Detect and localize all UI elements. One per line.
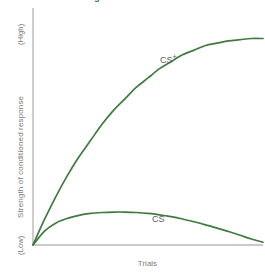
conditioning-response-chart: ...the conditioning occurs to the CS+ (H… <box>0 0 265 280</box>
y-axis-title: Strength of conditioned response <box>16 96 25 218</box>
series-line-cs-minus <box>33 212 263 245</box>
series-label-cs-plus-sign: + <box>173 53 177 60</box>
series-label-cs-minus-sign: − <box>165 212 169 219</box>
y-axis-low-label: (Low) <box>16 235 25 255</box>
y-axis-labels: (High) Strength of conditioned response … <box>0 0 30 280</box>
plot-svg <box>30 8 265 253</box>
series-label-cs-minus-base: CS <box>152 214 165 224</box>
x-axis-title: Trials <box>30 259 265 268</box>
series-label-cs-minus: CS− <box>152 214 169 224</box>
y-axis-high-label: (High) <box>16 24 25 45</box>
plot-area <box>30 8 265 253</box>
figure-heading: ...the conditioning occurs to the CS+ <box>18 0 265 2</box>
series-label-cs-plus: CS+ <box>160 55 177 65</box>
series-label-cs-plus-base: CS <box>160 55 173 65</box>
